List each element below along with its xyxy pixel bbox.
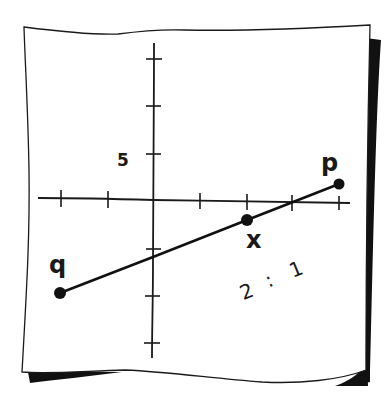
diagram-canvas: 5 q x p 2 : 1: [0, 0, 386, 393]
y-tick-label-5: 5: [117, 150, 129, 170]
paper-sheet: [22, 25, 370, 383]
point-label-x: x: [246, 226, 262, 254]
point-label-p: p: [321, 149, 338, 177]
point-label-q: q: [49, 251, 66, 279]
point-x: [241, 214, 253, 226]
point-q: [54, 287, 66, 299]
point-p: [334, 179, 345, 190]
paper-shadow-bottom-left: [28, 372, 122, 383]
